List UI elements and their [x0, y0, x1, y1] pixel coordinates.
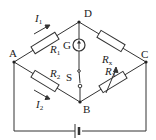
- node-c-label: C: [141, 49, 148, 60]
- node-b-dot: [78, 100, 81, 103]
- node-a-label: A: [9, 48, 17, 59]
- label-i1: I1: [35, 13, 42, 26]
- galvanometer-icon: [73, 39, 85, 51]
- label-i2: I2: [36, 99, 43, 112]
- label-g: G: [63, 40, 71, 51]
- arrow-i1-icon: [34, 25, 50, 34]
- resistor-rx: [97, 30, 125, 51]
- label-r1: R1: [50, 44, 60, 57]
- label-s: S: [66, 72, 72, 83]
- label-r3: R3: [105, 66, 115, 79]
- switch-s-icon: [78, 70, 82, 88]
- node-d-dot: [77, 20, 80, 23]
- battery-icon: [75, 124, 79, 138]
- node-d-label: D: [84, 8, 92, 19]
- node-b-label: B: [83, 104, 90, 115]
- label-r2: R2: [50, 68, 60, 81]
- node-a-dot: [12, 60, 15, 63]
- circuit-diagram: [0, 0, 156, 140]
- node-c-dot: [144, 60, 147, 63]
